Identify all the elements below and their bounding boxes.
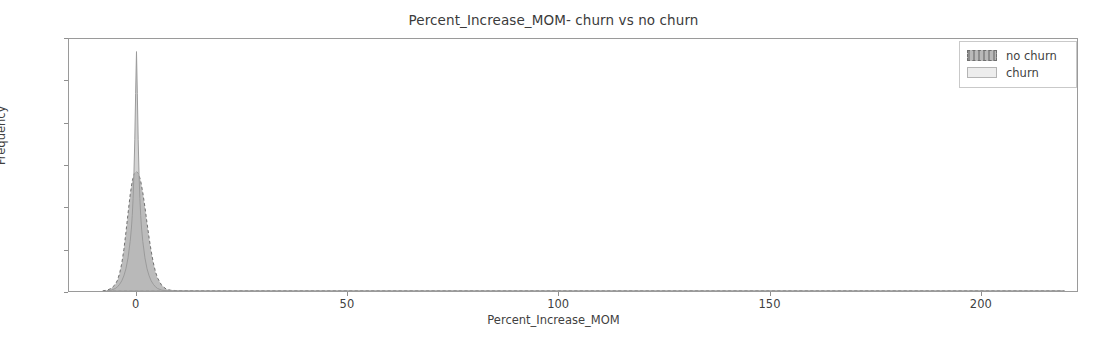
plot-area	[68, 38, 1078, 292]
legend-swatch-churn-icon	[967, 67, 997, 78]
x-axis-tick-mark	[136, 292, 137, 296]
legend-swatch-no-churn-icon	[967, 50, 997, 61]
x-axis-tick-label: 0	[132, 297, 139, 311]
density-plot-canvas	[69, 39, 1077, 291]
legend-label-no-churn: no churn	[1006, 49, 1057, 63]
x-axis-tick-mark	[981, 292, 982, 296]
legend-label-churn: churn	[1006, 66, 1039, 80]
x-axis-tick-label: 50	[340, 297, 355, 311]
density-line-churn	[107, 52, 1064, 291]
x-axis-label: Percent_Increase_MOM	[0, 313, 1107, 327]
x-axis-tick-label: 100	[547, 297, 569, 311]
legend-item-churn[interactable]: churn	[967, 64, 1069, 81]
x-axis-tick-mark	[347, 292, 348, 296]
density-area-no-churn	[103, 171, 1065, 291]
density-line-no-churn	[103, 171, 1065, 291]
y-axis-tick-mark	[64, 292, 68, 293]
legend: no churn churn	[959, 41, 1077, 88]
x-axis-tick-mark	[770, 292, 771, 296]
legend-item-no-churn[interactable]: no churn	[967, 47, 1069, 64]
chart-title: Percent_Increase_MOM- churn vs no churn	[0, 12, 1107, 28]
x-axis-tick-label: 150	[759, 297, 781, 311]
x-axis-tick-mark	[558, 292, 559, 296]
x-axis-tick-label: 200	[970, 297, 992, 311]
figure: Percent_Increase_MOM- churn vs no churn …	[0, 0, 1107, 338]
density-area-churn	[107, 52, 1064, 291]
y-axis-label: Frequency	[0, 106, 8, 165]
